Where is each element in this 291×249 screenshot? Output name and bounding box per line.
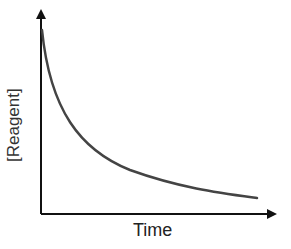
decay-chart (0, 0, 291, 249)
y-axis-label: [Reagent] (4, 88, 24, 162)
reagent-decay-curve (42, 30, 257, 198)
x-axis-label: Time (133, 220, 172, 241)
